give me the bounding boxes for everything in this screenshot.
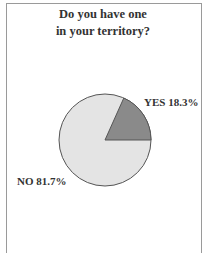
- label-yes: YES 18.3%: [144, 96, 198, 108]
- label-no: NO 81.7%: [17, 175, 67, 187]
